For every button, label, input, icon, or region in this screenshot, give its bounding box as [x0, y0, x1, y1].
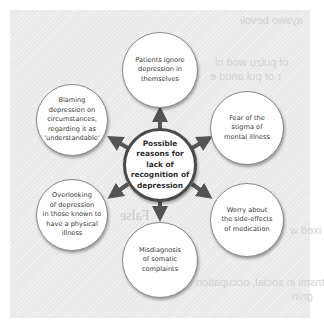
- node-upper-left: Blaming depression on circumstances, reg…: [36, 84, 108, 156]
- arrow-to-lower-left: [114, 184, 128, 194]
- arrow-to-lower-right: [192, 184, 206, 194]
- node-lower-right: Worry about the side-effects of medicati…: [210, 183, 284, 257]
- node-label: Fear of the stigma of mental illness: [221, 114, 273, 143]
- node-label: Worry about the side-effects of medicati…: [218, 206, 275, 235]
- node-upper-right: Fear of the stigma of mental illness: [210, 91, 284, 165]
- node-label: Patients ignore depression in themselves: [132, 56, 187, 85]
- node-center: Possible reasons for lack of recognition…: [123, 128, 197, 202]
- node-bottom: Misdiagnosis of somatic complaints: [122, 222, 198, 298]
- node-lower-left: Overlooking of depression in those known…: [36, 179, 108, 251]
- node-label: Misdiagnosis of somatic complaints: [136, 246, 184, 275]
- node-label: Blaming depression on circumstances, reg…: [41, 96, 102, 144]
- arrow-to-upper-left: [114, 140, 128, 148]
- arrow-to-upper-right: [192, 140, 206, 148]
- node-top: Patients ignore depression in themselves: [122, 32, 198, 108]
- center-label: Possible reasons for lack of recognition…: [128, 139, 192, 191]
- node-label: Overlooking of depression in those known…: [40, 191, 105, 239]
